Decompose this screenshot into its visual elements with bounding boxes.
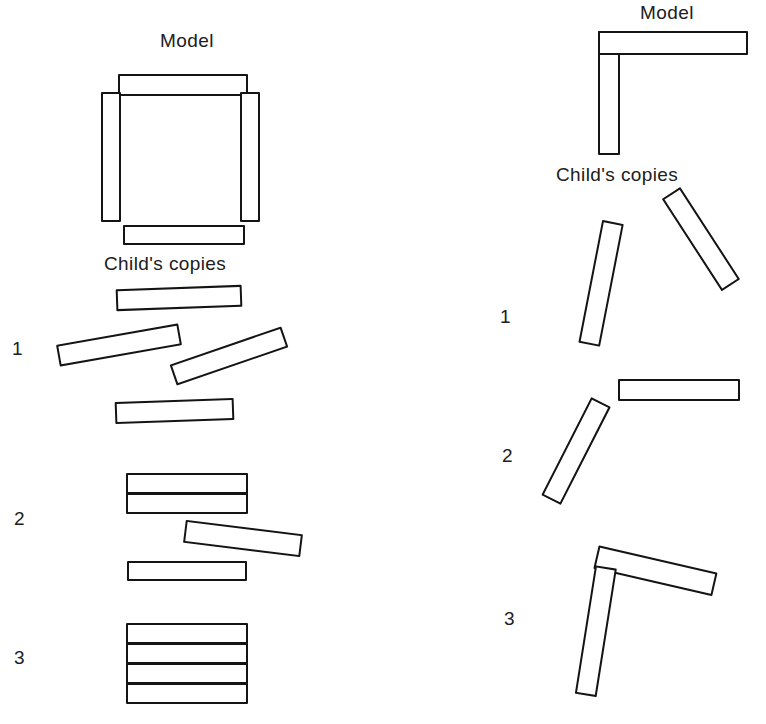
model-bottom-bar [123, 225, 245, 245]
copy-stick [578, 220, 623, 347]
copy-stick [126, 683, 248, 704]
copy-stick [126, 473, 248, 494]
copy-stick [115, 398, 235, 424]
model-left-bar [101, 92, 121, 222]
copy-stick [126, 643, 248, 664]
copy-stick [183, 520, 303, 557]
left-copies-caption: Child's copies [104, 253, 226, 275]
copy-stick [126, 663, 248, 684]
copy-stick [126, 493, 248, 514]
copy-stick [56, 323, 182, 366]
right-row-number-1: 1 [500, 306, 511, 328]
right-copies-caption: Child's copies [556, 164, 678, 186]
left-row-number-3: 3 [14, 647, 25, 669]
model-top-bar [118, 74, 248, 96]
figure-root: Model Child's copies 1 2 3 Model Child's… [0, 0, 766, 724]
left-row-number-1: 1 [12, 338, 23, 360]
panel-square-model: Model Child's copies 1 2 3 [0, 0, 480, 724]
copy-stick [126, 623, 248, 644]
left-row-number-2: 2 [14, 508, 25, 530]
copy-stick [116, 285, 243, 311]
model-right-bar [240, 92, 260, 222]
copy-stick [618, 379, 740, 401]
left-model-caption: Model [160, 30, 214, 52]
copy-stick [127, 561, 247, 581]
copy-stick [662, 187, 740, 291]
copy-stick [170, 326, 289, 385]
right-model-caption: Model [640, 2, 694, 24]
right-row-number-2: 2 [502, 445, 513, 467]
copy-stick [541, 397, 611, 505]
right-row-number-3: 3 [504, 608, 515, 630]
copy-stick [575, 565, 617, 697]
model-horizontal-bar [598, 31, 748, 55]
panel-angle-model: Model Child's copies 1 2 3 [480, 0, 766, 724]
